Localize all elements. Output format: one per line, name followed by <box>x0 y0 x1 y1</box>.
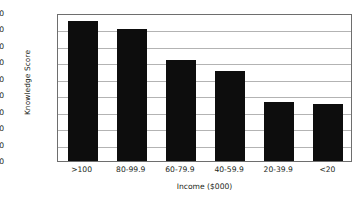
gridline <box>58 114 351 115</box>
y-axis-tick-label: 520 <box>0 43 4 51</box>
gridline <box>58 64 351 65</box>
y-axis-tick-label: 490 <box>0 92 4 100</box>
bar <box>68 15 98 161</box>
bar-rect <box>68 21 98 161</box>
y-axis-tick-label: 510 <box>0 59 4 67</box>
y-axis-tick-label: 460 <box>0 142 4 150</box>
bar-rect <box>264 102 294 161</box>
y-axis-title: Knowledge Score <box>23 8 32 158</box>
gridline <box>58 48 351 49</box>
bar-rect <box>117 29 147 161</box>
y-axis-tick-label: 480 <box>0 109 4 117</box>
y-axis-tick-label: 540 <box>0 10 4 18</box>
y-axis-tick-label: 450 <box>0 158 4 166</box>
bar <box>313 15 343 161</box>
bar <box>166 15 196 161</box>
gridline <box>58 31 351 32</box>
y-axis-tick-label: 470 <box>0 125 4 133</box>
x-axis-title: Income ($000) <box>57 182 352 191</box>
plot-area <box>57 14 352 162</box>
bar-chart-figure: Knowledge Score 450460470480490500510520… <box>0 0 361 201</box>
bar <box>215 15 245 161</box>
gridline <box>58 147 351 148</box>
bar <box>117 15 147 161</box>
bar <box>264 15 294 161</box>
bar-rect <box>215 71 245 161</box>
x-axis-tick-label: <20 <box>297 165 357 174</box>
y-axis-tick-label: 500 <box>0 76 4 84</box>
gridline <box>58 97 351 98</box>
bar-rect <box>166 60 196 161</box>
bar-rect <box>313 104 343 161</box>
gridline <box>58 81 351 82</box>
gridline <box>58 130 351 131</box>
y-axis-tick-label: 530 <box>0 26 4 34</box>
